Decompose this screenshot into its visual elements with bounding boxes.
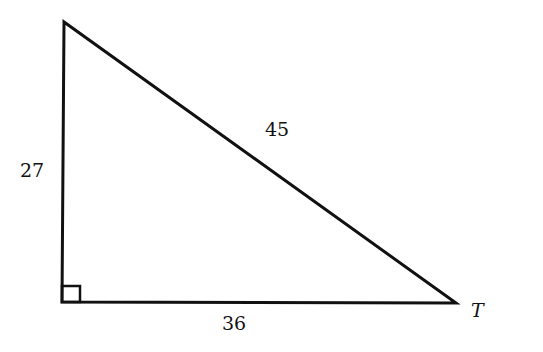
label-left-side: 27 (20, 159, 44, 181)
label-hypotenuse: 45 (265, 118, 289, 140)
label-vertex-t: T (471, 299, 485, 321)
triangle (62, 22, 456, 303)
triangle-diagram: 27 45 36 T (0, 0, 543, 352)
label-bottom-side: 36 (222, 312, 246, 334)
right-angle-marker (62, 286, 80, 302)
